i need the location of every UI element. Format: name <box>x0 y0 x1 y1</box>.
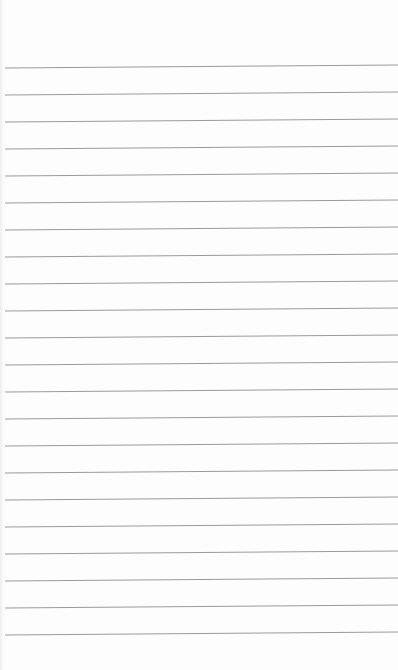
ruled-line <box>5 578 398 581</box>
ruled-line <box>5 254 398 257</box>
ruled-line <box>5 173 398 176</box>
ruled-line <box>5 470 398 473</box>
ruled-line <box>5 362 398 365</box>
ruled-line <box>5 632 398 635</box>
ruled-line <box>5 443 398 446</box>
ruled-line <box>5 416 398 419</box>
ruled-line <box>5 146 398 149</box>
ruled-line <box>5 65 398 68</box>
ruled-line <box>5 551 398 554</box>
lined-paper <box>0 0 398 670</box>
ruled-line <box>5 497 398 500</box>
ruled-line <box>5 200 398 203</box>
ruled-line <box>5 227 398 230</box>
ruled-line <box>5 524 398 527</box>
ruled-line <box>5 119 398 122</box>
ruled-line <box>5 335 398 338</box>
ruled-line <box>5 281 398 284</box>
ruled-lines <box>0 0 398 670</box>
ruled-line <box>5 605 398 608</box>
ruled-line <box>5 92 398 95</box>
ruled-line <box>5 308 398 311</box>
ruled-line <box>5 389 398 392</box>
